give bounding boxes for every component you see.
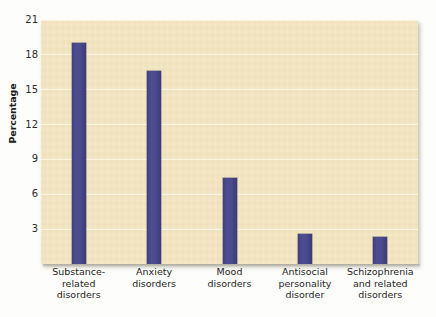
- x-category-label: Antisocial personality disorder: [267, 266, 342, 301]
- y-tick-label: 18: [16, 50, 38, 60]
- x-category-label: Substance- related disorders: [41, 266, 116, 301]
- bar: [223, 178, 237, 264]
- gridline: [41, 124, 418, 125]
- x-category-label: Anxiety disorders: [116, 266, 191, 289]
- gridline: [41, 20, 418, 21]
- plot-area: [41, 20, 418, 264]
- y-tick-label: 9: [16, 154, 38, 164]
- gridline: [41, 89, 418, 90]
- bar: [147, 71, 161, 264]
- bar: [373, 237, 387, 264]
- bar-chart: Percentage 36912151821 Substance- relate…: [0, 0, 436, 317]
- x-category-label: Schizophrenia and related disorders: [343, 266, 418, 301]
- y-tick-label: 12: [16, 120, 38, 130]
- bar: [72, 43, 86, 264]
- x-axis-category-labels: Substance- related disordersAnxiety diso…: [41, 266, 418, 316]
- y-axis-tick-labels: 36912151821: [10, 0, 38, 317]
- x-category-label: Mood disorders: [192, 266, 267, 289]
- y-tick-label: 3: [16, 224, 38, 234]
- y-tick-label: 15: [16, 85, 38, 95]
- y-tick-label: 6: [16, 189, 38, 199]
- gridline: [41, 54, 418, 55]
- bar: [298, 234, 312, 264]
- y-tick-label: 21: [16, 15, 38, 25]
- gridline: [41, 159, 418, 160]
